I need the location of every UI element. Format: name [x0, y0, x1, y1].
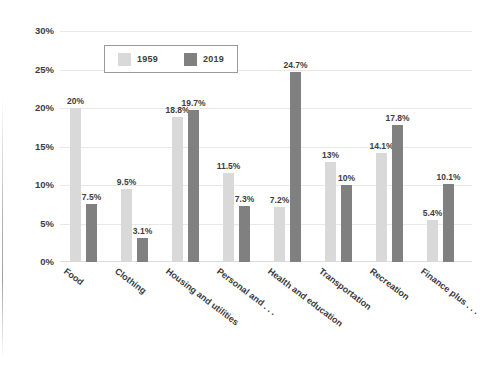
light-gray-swatch-icon — [118, 53, 131, 66]
bar-value-label: 13% — [322, 151, 339, 160]
bar-value-label: 24.7% — [283, 61, 307, 70]
bar-group-transportation: 13% 10% — [320, 31, 358, 262]
bar-value-label: 11.5% — [217, 162, 241, 171]
y-axis-tick-0: 0% — [14, 257, 54, 267]
dark-gray-swatch-icon — [184, 53, 197, 66]
bar-2019-housing-and-utilities: 19.7% — [188, 110, 199, 262]
bar-1959-recreation: 14.1% — [376, 153, 387, 262]
bar-1959-food: 20% — [70, 108, 81, 262]
bar-1959-finance-plus: 5.4% — [427, 220, 438, 262]
x-axis-label-transportation: Transportation — [317, 266, 373, 312]
x-axis-label-food: Food — [62, 266, 86, 287]
bar-1959-personal-and: 11.5% — [223, 173, 234, 262]
bar-value-label: 19.7% — [181, 99, 205, 108]
bar-2019-personal-and: 7.3% — [239, 206, 250, 262]
x-axis-label-recreation: Recreation — [368, 266, 411, 302]
y-axis-tick-30: 30% — [14, 26, 54, 36]
bar-value-label: 7.5% — [82, 193, 101, 202]
bar-value-label: 10.1% — [436, 173, 460, 182]
bar-1959-health-and-education: 7.2% — [274, 207, 285, 262]
bar-value-label: 9.5% — [117, 178, 136, 187]
x-axis-label-clothing: Clothing — [113, 266, 148, 296]
chart-legend: 1959 2019 — [104, 45, 238, 73]
bar-value-label: 7.2% — [270, 196, 289, 205]
bar-value-label: 3.1% — [133, 227, 152, 236]
bar-chart: 30% 25% 20% 15% 10% 5% 0% 20% 7.5% 9.5% — [0, 0, 496, 385]
legend-label: 1959 — [137, 54, 158, 64]
bar-1959-transportation: 13% — [325, 162, 336, 262]
bar-value-label: 10% — [338, 174, 355, 183]
y-axis-tick-10: 10% — [14, 180, 54, 190]
x-axis-label-finance-plus: Finance plus . . . — [419, 266, 481, 316]
y-axis-tick-20: 20% — [14, 103, 54, 113]
bar-2019-finance-plus: 10.1% — [443, 184, 454, 262]
y-axis: 30% 25% 20% 15% 10% 5% 0% — [10, 31, 54, 262]
bar-group-health-and-education: 7.2% 24.7% — [269, 31, 307, 262]
y-axis-tick-5: 5% — [14, 219, 54, 229]
y-axis-tick-25: 25% — [14, 65, 54, 75]
bar-2019-clothing: 3.1% — [137, 238, 148, 262]
bar-1959-housing-and-utilities: 18.8% — [172, 117, 183, 262]
page-left-rule — [2, 96, 3, 358]
bar-group-recreation: 14.1% 17.8% — [371, 31, 409, 262]
bar-group-finance-plus: 5.4% 10.1% — [422, 31, 460, 262]
legend-label: 2019 — [203, 54, 224, 64]
bar-2019-food: 7.5% — [86, 204, 97, 262]
bar-2019-transportation: 10% — [341, 185, 352, 262]
bar-value-label: 17.8% — [385, 114, 409, 123]
y-axis-tick-15: 15% — [14, 142, 54, 152]
legend-item-1959: 1959 — [118, 53, 158, 66]
bar-2019-recreation: 17.8% — [392, 125, 403, 262]
bar-value-label: 5.4% — [423, 209, 442, 218]
bar-value-label: 14.1% — [369, 142, 393, 151]
x-axis: Food Clothing Housing and utilities Pers… — [60, 266, 472, 376]
legend-item-2019: 2019 — [184, 53, 224, 66]
bar-value-label: 20% — [67, 97, 84, 106]
bar-1959-clothing: 9.5% — [121, 189, 132, 262]
bar-group-food: 20% 7.5% — [65, 31, 103, 262]
bar-2019-health-and-education: 24.7% — [290, 72, 301, 262]
bar-value-label: 7.3% — [235, 195, 254, 204]
